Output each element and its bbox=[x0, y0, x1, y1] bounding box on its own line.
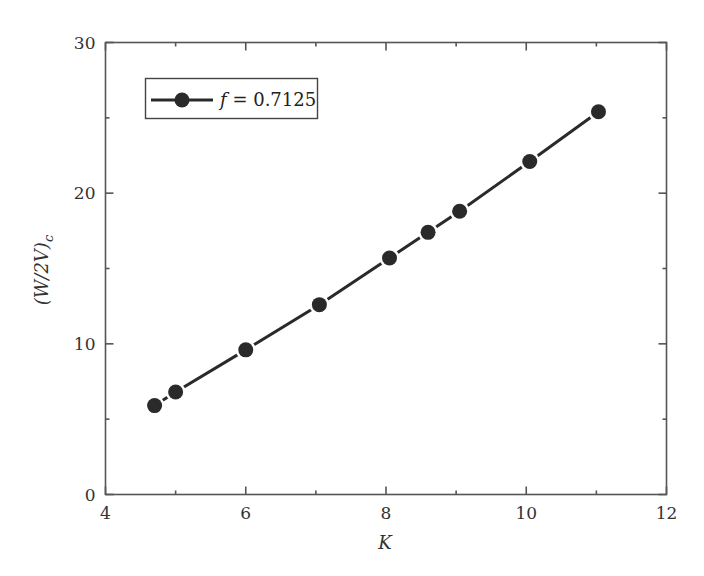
y-tick-label: 30 bbox=[74, 33, 96, 53]
x-tick-label: 4 bbox=[100, 503, 111, 523]
data-point-marker bbox=[522, 154, 537, 169]
data-point-marker bbox=[147, 398, 162, 413]
legend-label-value: = 0.7125 bbox=[227, 89, 317, 110]
series-line bbox=[145, 102, 609, 416]
legend: f = 0.7125 bbox=[146, 79, 318, 119]
y-axis-title-main: (W/2V) bbox=[31, 242, 52, 305]
data-point-marker bbox=[238, 342, 253, 357]
y-tick-label: 10 bbox=[74, 334, 96, 354]
data-point-marker bbox=[452, 204, 467, 219]
chart: 46810120102030 K (W/2V)c f = 0.7125 bbox=[0, 0, 704, 576]
data-point-marker bbox=[591, 104, 606, 119]
legend-marker-icon bbox=[175, 93, 190, 108]
x-tick-label: 6 bbox=[240, 503, 251, 523]
x-tick-label: 8 bbox=[381, 503, 392, 523]
x-tick-label: 12 bbox=[656, 503, 678, 523]
legend-label: f = 0.7125 bbox=[218, 89, 316, 110]
x-axis-title: K bbox=[377, 532, 393, 553]
x-tick-label: 10 bbox=[515, 503, 537, 523]
y-tick-label: 0 bbox=[85, 485, 96, 505]
y-axis-title: (W/2V)c bbox=[31, 234, 56, 305]
data-point-marker bbox=[382, 250, 397, 265]
y-axis-title-subscript: c bbox=[41, 234, 56, 242]
data-point-marker bbox=[421, 225, 436, 240]
data-point-marker bbox=[312, 297, 327, 312]
svg-text:(W/2V)c: (W/2V)c bbox=[31, 234, 56, 305]
y-tick-label: 20 bbox=[74, 183, 96, 203]
data-point-marker bbox=[168, 385, 183, 400]
